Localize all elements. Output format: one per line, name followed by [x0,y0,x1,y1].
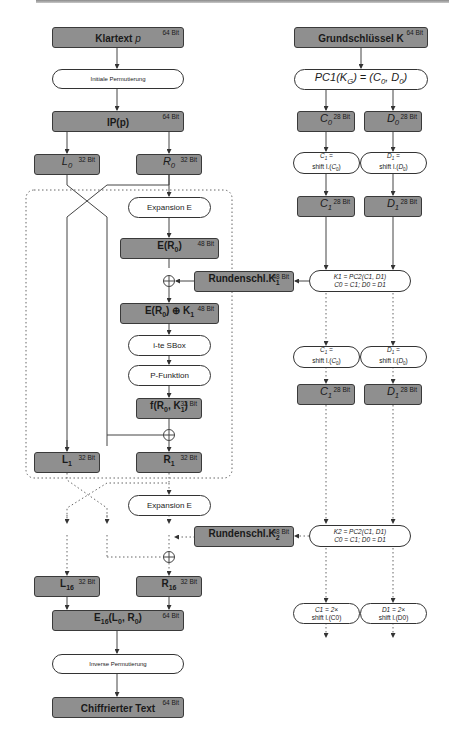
ciphertext-box: 64 Bit Chiffrierter Text [52,697,184,718]
ciphertext-label: Chiffrierter Text [53,703,183,715]
l1-box: 32 Bit L1 [34,452,100,473]
pc2-k2-line2: C0 = C1; D0 = D1 [334,536,386,544]
p-function-label: P-Funktion [150,371,189,381]
sbox-step: i-te SBox [128,335,211,356]
shift-c1-line1: C1 = [320,152,333,163]
r0-box: 32 Bit R0 [136,154,202,175]
initial-permutation-step: Initiale Permutierung [52,69,184,89]
initial-permutation-label: Initiale Permutierung [90,74,145,84]
shift-d1b-line2: shift l.(D0) [379,357,408,368]
e16-box: 64 Bit E16(L0, R0) [52,610,184,631]
ip-label: IP(p) [53,117,183,129]
shift2-c1-line1: C1 = 2× [315,606,338,614]
l0-label: L0 [35,155,99,172]
e-r0-xor-k1-label: E(R0) ⊕ K1 [121,305,218,321]
pc2-k1-step: K1 = PC2(C1, D1) C0 = C1; D0 = D1 [309,270,411,292]
e-r0-box: 48 Bit E(R0) [120,238,219,259]
inverse-permutation-label: Inverse Permutierung [89,659,146,669]
master-key-label: Grundschlüssel K [295,33,427,45]
r0-label: R0 [137,155,201,172]
plaintext-box: 64 Bit Klartext p [52,27,184,48]
l16-label: L16 [35,578,99,594]
expansion-step-2: Expansion E [128,495,211,516]
pc2-k1-line1: K1 = PC2(C1, D1) [334,273,387,281]
shift-c1b-line1: C1 = [320,346,333,357]
r16-label: R16 [137,578,201,594]
c0-label: C0 [298,112,354,129]
shift2-d1-step: D1 = 2× shift l.(D0) [360,603,427,624]
shift2-c1-step: C1 = 2× shift l.(C0) [293,603,360,624]
l16-box: 32 Bit L16 [34,576,100,597]
round-key-1-box: 48 Bit Rundenschl.K1 [194,271,294,292]
e-r0-label: E(R0) [121,240,218,256]
d1-label: D1 [365,197,421,214]
round-key-1-label: Rundenschl.K1 [195,273,293,289]
plaintext-label: Klartext p [53,33,183,45]
c1-label: C1 [298,197,354,214]
ip-box: 64 Bit IP(p) [52,111,184,132]
e-r0-xor-k1-box: 48 Bit E(R0) ⊕ K1 [120,303,219,324]
l1-label: L1 [35,454,99,470]
master-key-box: 64 Bit Grundschlüssel K [294,27,428,48]
d0-label: D0 [365,112,421,129]
shift-c1b-line2: shift l.(C0) [312,357,341,368]
pc2-k2-step: K2 = PC2(C1, D1) C0 = C1; D0 = D1 [309,525,411,547]
shift-d1-line2: shift l.(D0) [379,163,408,174]
c1-box: 28 Bit C1 [297,196,355,217]
d0-box: 28 Bit D0 [364,111,422,132]
d1-box: 28 Bit D1 [364,196,422,217]
l0-box: 32 Bit L0 [34,154,100,175]
shift-d1b-line1: D1 = [387,346,400,357]
round-key-2-box: 48 Bit Rundenschl.K2 [194,526,294,547]
shift-c1b-step: C1 = shift l.(C0) [293,346,360,368]
pc1-step: PC1(KG) = (C0, D0) [294,69,428,90]
expansion-label: Expansion E [147,203,192,213]
expansion-label: Expansion E [147,501,192,511]
d1b-label: D1 [365,385,421,402]
round-key-2-label: Rundenschl.K2 [195,528,293,544]
shift-d1b-step: D1 = shift l.(D0) [360,346,427,368]
d1b-box: 28 Bit D1 [364,384,422,405]
shift-d1-step: D1 = shift l.(D0) [360,152,427,174]
r16-box: 32 Bit R16 [136,576,202,597]
c0-box: 28 Bit C0 [297,111,355,132]
f-function-box: 32 Bit f(R0, K1) [136,398,202,419]
shift2-d1-line1: D1 = 2× [382,606,405,614]
p-function-step: P-Funktion [128,365,211,386]
c1b-label: C1 [298,385,354,402]
shift-c1-line2: shift l.(C0) [312,163,341,174]
r1-label: R1 [137,454,201,470]
shift-d1-line1: D1 = [387,152,400,163]
pc2-k2-line1: K2 = PC2(C1, D1) [334,528,387,536]
f-function-label: f(R0, K1) [137,400,201,416]
inverse-permutation-step: Inverse Permutierung [52,654,184,674]
c1b-box: 28 Bit C1 [297,384,355,405]
e16-label: E16(L0, R0) [53,612,183,628]
shift-c1-step: C1 = shift l.(C0) [293,152,360,174]
pc1-label: PC1(KG) = (C0, D0) [315,72,408,87]
shift2-d1-line2: shift l.(D0) [379,614,409,622]
r1-box: 32 Bit R1 [136,452,202,473]
sbox-label: i-te SBox [153,341,185,351]
shift2-c1-line2: shift l.(C0) [312,614,342,622]
pc2-k1-line2: C0 = C1; D0 = D1 [334,281,386,289]
expansion-step-1: Expansion E [128,197,211,218]
